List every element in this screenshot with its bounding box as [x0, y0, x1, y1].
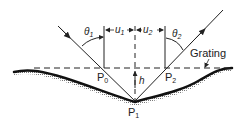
theta1-arc	[82, 37, 103, 46]
grating-surface	[14, 68, 232, 102]
theta2-label: θ2	[172, 28, 181, 40]
diffracted-ray-arrow	[190, 29, 205, 44]
incident-ray-arrow	[58, 26, 70, 38]
u1-label: u1	[115, 24, 125, 36]
p1-label: P1	[128, 106, 139, 119]
theta1-label: θ1	[84, 26, 93, 38]
h-label: h	[139, 75, 145, 86]
grating-label: Grating	[190, 47, 226, 59]
u2-label: u2	[143, 24, 153, 36]
p2-label: P2	[165, 71, 176, 84]
grating-diagram: θ1 θ2 u1 u2 Grating h P0 P1 P2	[0, 0, 250, 126]
grating-pointer	[205, 59, 209, 67]
